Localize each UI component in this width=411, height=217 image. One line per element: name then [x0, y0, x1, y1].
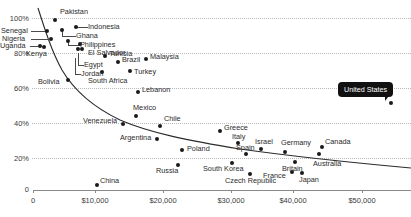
data-point-philippines[interactable]: [66, 39, 70, 43]
data-point-argentina[interactable]: [155, 137, 159, 141]
point-label-russia: Russia: [156, 167, 178, 175]
leader-egypt-v: [78, 53, 79, 65]
data-point-ghana[interactable]: [60, 28, 64, 32]
point-label-italy: Italy: [232, 133, 245, 141]
point-label-israel: Israel: [255, 138, 273, 146]
data-point-bolivia[interactable]: [66, 78, 70, 82]
point-label-czechrepublic: Czech Republic: [225, 177, 276, 185]
point-label-uganda: Uganda: [0, 42, 26, 50]
leader-nigeria: [31, 39, 49, 40]
data-point-mexico[interactable]: [134, 114, 138, 118]
data-point-turkey[interactable]: [128, 69, 132, 73]
point-label-southafrica: South Africa: [88, 77, 127, 85]
point-label-bolivia: Bolivia: [38, 78, 60, 86]
data-point-spain[interactable]: [244, 152, 248, 156]
leader-uganda: [30, 46, 38, 47]
scatter-chart: 100% 80% 60% 40% 20% 0 0 $10,000 $20,000…: [0, 0, 411, 217]
point-label-ghana: Ghana: [76, 32, 98, 40]
point-label-china: China: [100, 177, 119, 185]
point-label-canada: Canada: [325, 138, 351, 146]
point-label-spain: Spain: [236, 144, 255, 152]
point-label-chile: Chile: [164, 115, 181, 123]
data-point-pakistan[interactable]: [53, 18, 57, 22]
point-label-pakistan: Pakistan: [60, 8, 88, 16]
point-label-germany: Germany: [281, 139, 311, 147]
data-point-indonesia[interactable]: [74, 25, 78, 29]
point-label-turkey: Turkey: [134, 68, 156, 76]
point-label-kenya: Kenya: [26, 50, 47, 58]
point-label-japan: Japan: [299, 176, 319, 184]
point-label-malaysia: Malaysia: [150, 53, 179, 61]
data-point-australia[interactable]: [317, 152, 321, 156]
leader-senegal: [31, 31, 45, 32]
data-point-lebanon[interactable]: [136, 90, 140, 94]
point-label-egypt: Egypt: [84, 61, 103, 69]
data-point-unitedstates[interactable]: [389, 101, 393, 105]
point-label-australia: Australia: [313, 160, 341, 168]
point-label-argentina: Argentina: [120, 134, 151, 142]
data-point-germany[interactable]: [283, 150, 287, 154]
point-label-venezuela: Venezuela: [83, 117, 117, 125]
point-label-lebanon: Lebanon: [142, 86, 170, 94]
data-point-israel[interactable]: [259, 147, 263, 151]
data-point-malaysia[interactable]: [144, 57, 148, 61]
point-label-greece: Greece: [224, 124, 248, 132]
data-point-china[interactable]: [95, 183, 99, 187]
data-point-chile[interactable]: [158, 124, 162, 128]
point-label-mexico: Mexico: [133, 104, 156, 112]
data-point-nigeria[interactable]: [49, 37, 53, 41]
point-label-brazil: Brazil: [122, 56, 140, 64]
data-point-brazil[interactable]: [116, 60, 120, 64]
point-label-southkorea: South Korea: [203, 165, 244, 173]
leader-jordan-v: [75, 58, 76, 74]
plot-area: 100% 80% 60% 40% 20% 0 0 $10,000 $20,000…: [0, 0, 411, 217]
leader-ghana: [62, 36, 76, 37]
point-label-indonesia: Indonesia: [88, 23, 120, 31]
data-point-venezuela[interactable]: [121, 122, 125, 126]
data-point-poland[interactable]: [180, 148, 184, 152]
data-point-greece[interactable]: [218, 129, 222, 133]
data-point-canada[interactable]: [320, 145, 324, 149]
data-point-senegal[interactable]: [45, 29, 49, 33]
tooltip-tail: [385, 92, 392, 101]
point-label-poland: Poland: [187, 145, 210, 153]
